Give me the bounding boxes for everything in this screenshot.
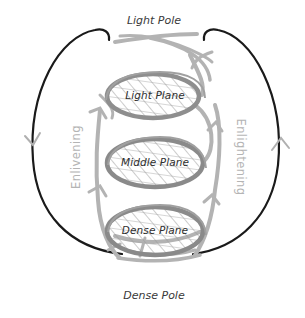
dense-plane-label: Dense Plane: [100, 224, 210, 236]
enlivening-flow-label: Enlivening: [69, 117, 83, 197]
dense-pole-label: Dense Pole: [94, 289, 214, 302]
middle-plane-label: Middle Plane: [100, 156, 210, 168]
up-arrow-icon: [272, 138, 289, 150]
light-pole-label: Light Pole: [94, 14, 214, 27]
enlightening-flow-label: Enlightening: [234, 112, 248, 202]
light-plane-label: Light Plane: [100, 89, 210, 101]
